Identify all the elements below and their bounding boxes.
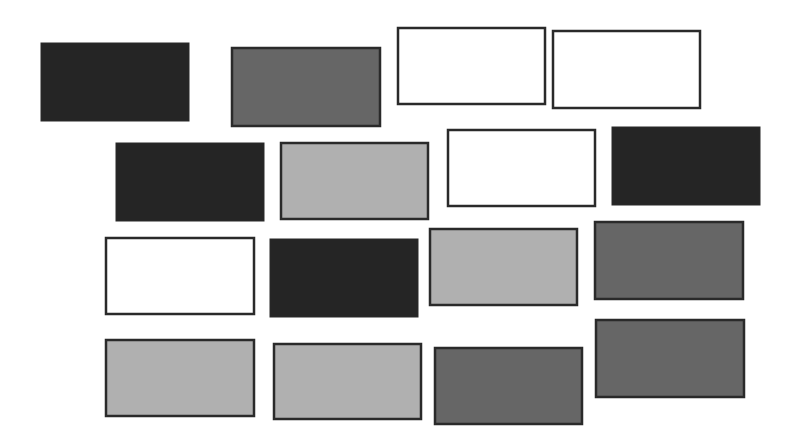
- rectangle-row-1: [41, 28, 700, 126]
- rectangle-black-r3c2: [270, 239, 418, 317]
- rectangle-white-r2c3: [448, 130, 595, 206]
- rectangle-light-gray-r3c3: [430, 229, 577, 305]
- rectangle-light-gray-r4c2: [274, 344, 421, 419]
- rectangle-white-r1c4: [553, 31, 700, 108]
- rectangle-black-r2c1: [116, 143, 264, 221]
- rectangle-row-2: [116, 127, 760, 221]
- rectangle-light-gray-r4c1: [106, 340, 254, 416]
- rectangle-white-r1c3: [398, 28, 545, 104]
- rectangle-dark-gray-r4c3: [435, 348, 582, 424]
- rectangle-dark-gray-r4c4: [596, 320, 744, 397]
- rectangle-black-r2c4: [612, 127, 760, 205]
- rectangle-white-r3c1: [106, 238, 254, 314]
- rectangle-black-r1c1: [41, 43, 189, 121]
- rectangle-dark-gray-r3c4: [595, 222, 743, 299]
- rectangle-light-gray-r2c2: [281, 143, 428, 219]
- rectangle-dark-gray-r1c2: [232, 48, 380, 126]
- rectangle-row-3: [106, 222, 743, 317]
- rectangle-grid-figure: [0, 0, 791, 444]
- rectangle-row-4: [106, 320, 744, 424]
